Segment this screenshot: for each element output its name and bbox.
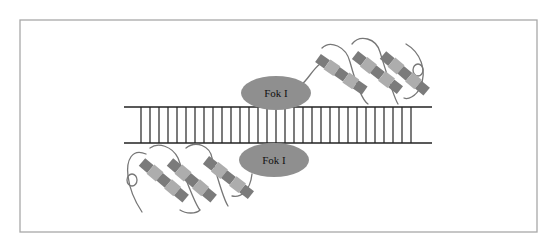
zfn-diagram: Fok I Fok I bbox=[0, 0, 554, 246]
zinc-finger-bottom-1 bbox=[127, 152, 190, 212]
fok-i-bottom: Fok I bbox=[239, 143, 309, 177]
dna-double-helix bbox=[124, 107, 432, 143]
dna-base-pairs bbox=[141, 107, 411, 143]
fok-i-top: Fok I bbox=[241, 76, 311, 110]
fok-i-top-label: Fok I bbox=[264, 87, 288, 99]
zinc-finger-array-bottom bbox=[127, 144, 255, 213]
diagram-frame bbox=[20, 20, 537, 232]
zinc-finger-array-top bbox=[300, 38, 431, 104]
zinc-finger-top-3 bbox=[379, 44, 430, 99]
fok-i-bottom-label: Fok I bbox=[262, 154, 286, 166]
